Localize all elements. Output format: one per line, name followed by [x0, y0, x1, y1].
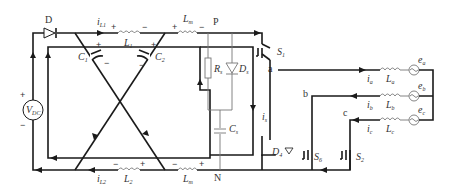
ia-label: ia [367, 73, 373, 85]
ic-label: ic [367, 123, 373, 135]
inductor-l2 [118, 168, 140, 170]
la-label: La [385, 73, 395, 85]
inductor-lm-top [178, 31, 197, 33]
inductor-lb [380, 94, 409, 96]
arrow-left-icon [88, 167, 95, 173]
s6-label: S6 [314, 151, 322, 163]
node-p-label: P [213, 16, 219, 27]
arrow-right-icon [254, 30, 261, 36]
inductor-l1 [118, 31, 140, 33]
i-l1-label: iL1 [97, 16, 106, 28]
switch-s1 [256, 44, 270, 60]
l2-plus: + [140, 159, 145, 169]
switch-s2 [340, 150, 346, 160]
inductor-lm-bottom [178, 168, 197, 170]
ac-source-ea [409, 65, 419, 75]
wire-top [33, 33, 44, 100]
wire-top-to-S1 [197, 33, 262, 44]
lm-top-minus: − [199, 22, 204, 32]
c1-minus: − [104, 58, 109, 68]
arrow-up-icon [45, 52, 51, 58]
wire-bottom [33, 120, 118, 170]
c2-minus: − [139, 60, 144, 70]
arrow-right-icon [359, 67, 366, 73]
ec-label: ec [418, 104, 425, 116]
is-label: is [262, 111, 268, 123]
c2-label: C2 [155, 51, 165, 63]
c2-plus: + [151, 40, 156, 50]
eb-label: eb [418, 80, 425, 92]
circuit-diagram: VDC + − D iL1 + − L1 + − Lm P C1 + − C2 … [0, 0, 451, 185]
arrow-left-icon [50, 155, 57, 161]
c1-label: C1 [78, 51, 88, 63]
lm-bottom-plus: + [199, 159, 204, 169]
lb-label: Lb [385, 99, 395, 111]
diode-ds [226, 63, 238, 74]
diode-d [44, 28, 56, 38]
arrow-right-icon [97, 30, 104, 36]
ds-label: Ds [238, 63, 249, 75]
l1-label: L1 [123, 37, 133, 49]
capacitor-cs [214, 128, 226, 134]
l1-plus: + [111, 22, 116, 32]
ac-source-eb [409, 91, 419, 101]
ac-source-ec [409, 115, 419, 125]
l2-label: L2 [123, 173, 133, 185]
node-n-label: N [214, 172, 221, 183]
resistor-rs [205, 58, 211, 78]
arrow-left-icon [35, 167, 42, 173]
lm-top-plus: + [172, 22, 177, 32]
diode-d4-symbol [285, 148, 293, 154]
arrow-up-icon [30, 52, 36, 58]
node-b-label: b [303, 88, 308, 99]
capacitor-c2 [137, 50, 150, 60]
c1-plus: + [96, 40, 101, 50]
vdc-plus: + [20, 90, 25, 100]
i-l2-label: iL2 [97, 173, 106, 185]
wire-inner-top [48, 47, 210, 158]
switch-s6 [302, 150, 308, 160]
rs-label: Rs [213, 63, 223, 75]
node-c-label: c [343, 107, 348, 118]
diode-d-label: D [45, 14, 52, 25]
arrow-left-icon [352, 117, 359, 123]
lm-top-label: Lm [182, 13, 194, 25]
wire-phase-c [350, 120, 380, 170]
s1-label: S1 [277, 46, 285, 58]
lc-label: Lc [385, 123, 395, 135]
arrow-down-right-icon [142, 130, 149, 136]
lm-bottom-label: Lm [182, 173, 194, 185]
ea-label: ea [418, 54, 425, 66]
capacitor-c1 [90, 50, 103, 60]
arrow-up-icon [197, 79, 203, 85]
lm-bottom-minus: − [172, 159, 177, 169]
l2-minus: − [113, 159, 118, 169]
ib-label: ib [367, 99, 373, 111]
inductor-lc [380, 118, 409, 120]
s2-label: S2 [356, 151, 364, 163]
l1-minus: − [142, 22, 147, 32]
cs-label: Cs [229, 123, 239, 135]
arrow-down-icon [250, 105, 256, 111]
vdc-minus: − [20, 120, 25, 130]
arrow-left-icon [320, 167, 327, 173]
arrow-left-icon [350, 93, 357, 99]
inductor-la [380, 68, 409, 70]
wire-snubber-thin [208, 33, 232, 170]
